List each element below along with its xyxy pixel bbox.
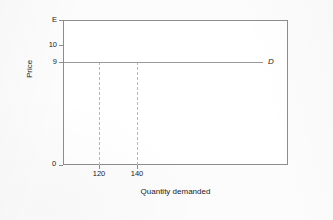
quantity-guide-120 (99, 62, 100, 165)
y-tick-mark-10 (59, 45, 63, 46)
y-tick-label-10: 10 (49, 41, 57, 49)
plot-area (63, 20, 288, 165)
origin-label: 0 (52, 160, 56, 168)
y-tick-mark-E (59, 20, 63, 21)
series-label-D: D (268, 58, 274, 66)
x-axis-title: Quantity demanded (63, 188, 288, 196)
y-tick-mark-9 (59, 62, 63, 63)
x-tick-label-140: 140 (131, 170, 144, 178)
x-tick-label-120: 120 (93, 170, 106, 178)
y-tick-mark-0 (59, 165, 63, 166)
y-tick-label-E: E (52, 16, 57, 24)
demand-curve-line (64, 62, 263, 63)
quantity-guide-140 (137, 62, 138, 165)
demand-curve-figure: E 10 9 0 120 140 D Quantity demanded Pri… (0, 0, 333, 220)
y-tick-label-9: 9 (53, 58, 57, 66)
y-axis-title: Price (26, 60, 34, 78)
